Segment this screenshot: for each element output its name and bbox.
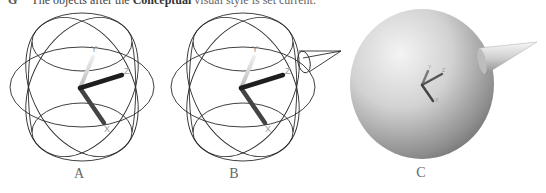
figure-b-cone-wireframe [296, 50, 341, 74]
axis-label-z: Z [124, 66, 130, 76]
axis-label-x: X [104, 124, 110, 134]
figure-canvas: Y Z X Y Z X Y Z X [0, 0, 546, 193]
axis-label-z: Z [285, 66, 291, 76]
figure-b-label: B [229, 166, 238, 182]
axis-label-y: Y [252, 44, 258, 54]
figure-b-wireframe: Y Z X [164, 0, 322, 176]
figure-c-label: C [416, 165, 425, 181]
axis-label-x: X [265, 124, 271, 134]
figure-a-wireframe: Y Z X [3, 0, 161, 176]
axis-label-y: Y [91, 44, 97, 54]
figure-c-conceptual: Y Z X [350, 9, 537, 159]
figure-a-label: A [74, 166, 84, 182]
axis-label-z: Z [442, 67, 445, 73]
